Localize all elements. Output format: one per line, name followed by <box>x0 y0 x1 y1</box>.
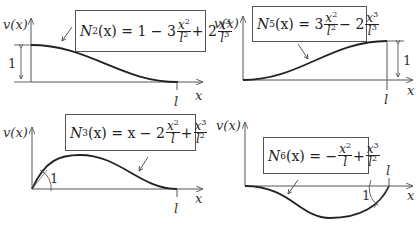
pointer-arrow <box>62 27 72 41</box>
eq-arg: (x) <box>88 125 107 141</box>
eq-const: = 3 <box>298 16 323 32</box>
eq-lhs: N <box>257 16 269 32</box>
fraction: x2l2 <box>324 12 338 37</box>
eq-arg: (x) <box>275 16 294 32</box>
exp: 2 <box>200 131 205 140</box>
pointer-arrow <box>139 157 148 171</box>
slope-label: 1 <box>50 171 58 186</box>
exp: 3 <box>224 30 229 39</box>
fraction: x2l <box>338 143 352 168</box>
eq-lhs: N <box>70 125 82 141</box>
exp: 2 <box>332 10 337 19</box>
fraction: x3l2 <box>366 143 380 168</box>
fraction: x2l <box>166 120 180 145</box>
eq-op: + <box>181 125 193 141</box>
exp: 2 <box>174 118 179 127</box>
eq-op: + 2 <box>192 23 217 39</box>
exp: 2 <box>185 17 190 26</box>
tick-label-l: l <box>174 94 178 109</box>
eq-const: = 1 − 3 <box>121 23 176 39</box>
y-axis-label: v(x) <box>216 118 241 133</box>
tick-label-l: l <box>386 163 390 178</box>
eq-lhs: N <box>80 23 92 39</box>
exp: 2 <box>346 141 351 150</box>
equation-box-n2: N2(x) = 1 − 3 x2l2 + 2 x3l3 <box>75 10 206 52</box>
eq-arg: (x) <box>98 23 117 39</box>
exp: 2 <box>331 23 336 32</box>
slope-label: 1 <box>362 188 370 203</box>
fraction: x3l2 <box>194 120 208 145</box>
pointer-arrow <box>298 44 308 59</box>
x-axis-label: x <box>407 188 415 203</box>
eq-arg: (x) <box>286 148 305 164</box>
tick-label-l: l <box>174 201 178 216</box>
exp: 3 <box>373 10 378 19</box>
equation-box-n3: N3(x) = x − 2 x2l + x3l2 <box>65 114 196 151</box>
den: l <box>343 155 347 169</box>
eq-const: = − <box>309 148 337 164</box>
num: x <box>167 119 174 133</box>
slope-tangent <box>374 186 389 208</box>
pointer-arrow <box>288 180 298 194</box>
eq-const: = x − 2 <box>111 125 165 141</box>
exp: 3 <box>372 23 377 32</box>
exp: 3 <box>201 118 206 127</box>
den: l <box>171 132 175 146</box>
x-axis-label: x <box>195 191 203 206</box>
y-axis-label: v(x) <box>3 125 28 140</box>
num: x <box>339 142 346 156</box>
exp: 2 <box>372 154 377 163</box>
eq-op: − 2 <box>339 16 364 32</box>
slope-tangent <box>32 170 47 189</box>
exp: 3 <box>226 17 231 26</box>
eq-op: + <box>353 148 365 164</box>
dimension-label: 1 <box>403 53 411 68</box>
fraction: x3l3 <box>218 19 232 44</box>
exp: 3 <box>374 141 379 150</box>
equation-box-n6: N6(x) = − x2l + x3l2 <box>263 137 369 174</box>
eq-lhs: N <box>268 148 280 164</box>
slope-arc <box>369 180 378 205</box>
y-axis-label: v(x) <box>3 17 28 32</box>
dimension-label: 1 <box>8 56 16 71</box>
x-axis-label: x <box>407 83 415 98</box>
x-axis-label: x <box>195 88 203 103</box>
exp: 2 <box>183 30 188 39</box>
shape-curve <box>243 41 387 80</box>
fraction: x3l3 <box>365 12 379 37</box>
tick-label-l: l <box>384 92 388 107</box>
equation-box-n5: N5(x) = 3 x2l2 − 2 x3l3 <box>252 6 367 42</box>
fraction: x2l2 <box>177 19 191 44</box>
